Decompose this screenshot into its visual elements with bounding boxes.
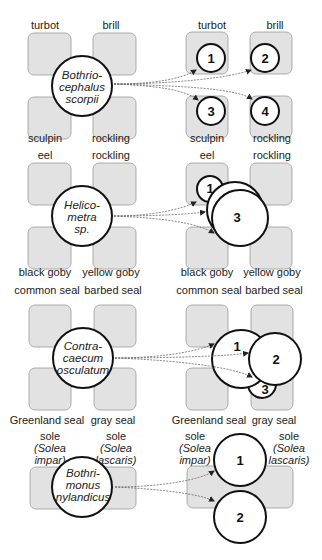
host-label: rockling bbox=[92, 132, 130, 144]
host-label-latin: lascaris) bbox=[269, 454, 310, 466]
host-label: yellow goby bbox=[243, 266, 301, 278]
host-label-latin: impar) bbox=[179, 454, 211, 466]
row-2-right-panel: sculpin rockling eel rockling 1 3 bbox=[186, 132, 292, 269]
cluster-number: 2 bbox=[272, 352, 279, 367]
host-label: Greenland seal bbox=[172, 414, 247, 426]
parasite-name-line: caecum bbox=[63, 352, 104, 364]
host-label: sculpin bbox=[190, 132, 224, 144]
parasite-name-line: scorpii bbox=[65, 93, 99, 105]
cluster-number: 2 bbox=[261, 51, 268, 66]
host-label: black goby bbox=[181, 266, 234, 278]
host-label: rockling bbox=[253, 149, 291, 161]
host-label: rockling bbox=[92, 149, 130, 161]
cluster-number: 3 bbox=[233, 210, 240, 225]
cluster-number: 2 bbox=[236, 510, 243, 525]
host-label: sole bbox=[106, 430, 126, 442]
parasite-name-line: Bothrio- bbox=[62, 69, 102, 81]
host-label: common seal bbox=[14, 284, 79, 296]
host-label: sole bbox=[185, 430, 205, 442]
host-label: gray seal bbox=[91, 414, 136, 426]
host-label: brill bbox=[102, 19, 119, 31]
host-label: eel bbox=[38, 149, 53, 161]
host-label: barbed seal bbox=[245, 284, 303, 296]
host-label: rockling bbox=[253, 132, 291, 144]
host-label: common seal bbox=[176, 284, 241, 296]
row-3-right-panel: black goby yellow goby common seal barbe… bbox=[176, 266, 302, 410]
host-label: sole bbox=[279, 430, 299, 442]
row-1-right-panel: turbot brill 1 2 3 4 bbox=[186, 19, 292, 138]
host-label: barbed seal bbox=[84, 284, 142, 296]
parasite-name-line: Helico- bbox=[64, 199, 100, 211]
host-label: sculpin bbox=[28, 132, 62, 144]
dashed-arrow bbox=[114, 84, 252, 99]
host-label: brill bbox=[266, 19, 283, 31]
parasite-name-line: cephalus bbox=[59, 81, 105, 93]
host-label-latin: (Solea bbox=[34, 442, 66, 454]
cluster-number: 3 bbox=[207, 104, 214, 119]
row-3-left-panel: black goby yellow goby common seal barbe… bbox=[14, 266, 141, 410]
parasite-name-line: osculatum bbox=[57, 364, 110, 376]
host-label: eel bbox=[200, 149, 215, 161]
cluster-number: 1 bbox=[233, 339, 240, 354]
row-4-right-panel: Greenland seal gray seal sole (Solea imp… bbox=[172, 414, 310, 543]
row-2-left-panel: sculpin rockling eel rockling Helico- me… bbox=[28, 132, 136, 269]
cluster-number: 4 bbox=[261, 104, 269, 119]
host-label: turbot bbox=[31, 19, 59, 31]
host-label: gray seal bbox=[252, 414, 297, 426]
host-label-latin: (Solea bbox=[100, 442, 132, 454]
row-4-left-panel: Greenland seal gray seal sole (Solea imp… bbox=[10, 414, 137, 517]
host-label: Greenland seal bbox=[10, 414, 85, 426]
parasite-name-line: nylandicus bbox=[56, 491, 111, 503]
host-label-latin: (Solea bbox=[179, 442, 211, 454]
parasite-host-diagram: turbot brill Bothrio- cephalus scorpii t… bbox=[0, 0, 322, 560]
row-1-arrows bbox=[114, 70, 252, 100]
parasite-name-line: sp. bbox=[74, 223, 89, 235]
parasite-name-line: Bothri- bbox=[66, 467, 100, 479]
host-label: black goby bbox=[19, 266, 72, 278]
host-label: sole bbox=[40, 430, 60, 442]
host-label: yellow goby bbox=[82, 266, 140, 278]
host-label: turbot bbox=[198, 19, 226, 31]
cluster-number: 1 bbox=[236, 453, 243, 468]
host-label-latin: (Solea bbox=[273, 442, 305, 454]
parasite-name-line: Contra- bbox=[64, 340, 103, 352]
row-1-left-panel: turbot brill Bothrio- cephalus scorpii bbox=[28, 19, 136, 139]
parasite-name-line: monus bbox=[66, 479, 101, 491]
parasite-name-line: metra bbox=[67, 211, 96, 223]
cluster-number: 1 bbox=[207, 51, 214, 66]
